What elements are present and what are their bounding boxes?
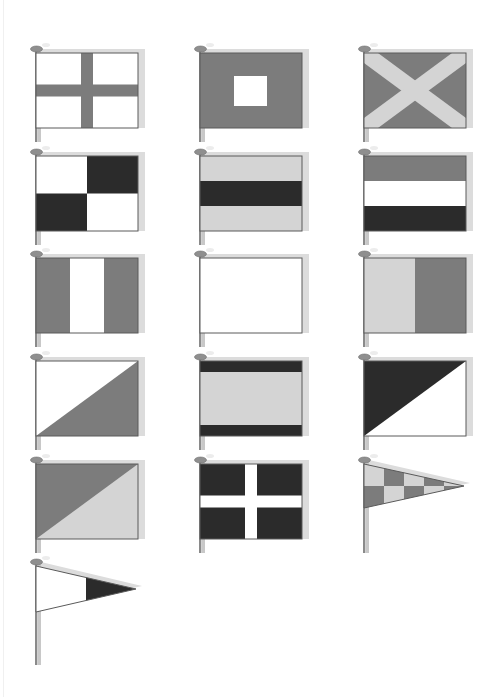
flag-cloth [36, 53, 138, 128]
flag-cloth [200, 156, 302, 231]
flag-r1c1 [32, 45, 162, 150]
flag-r3c3 [360, 250, 490, 355]
flag-r4c1 [32, 353, 162, 458]
flag-r2c3 [360, 148, 490, 253]
flag-r2c1 [32, 148, 162, 253]
flag-r2c2 [196, 148, 326, 253]
flag-r4c2 [196, 353, 326, 458]
flag-cloth [364, 258, 466, 333]
flag-cloth [200, 53, 302, 128]
flag-cloth [36, 361, 138, 436]
flag-r6c1 [32, 558, 162, 663]
flag-r5c1 [32, 456, 162, 561]
page-edge [3, 0, 4, 697]
flag-r4c3 [360, 353, 490, 458]
flag-r5c3 [360, 456, 490, 561]
flag-cloth [364, 53, 466, 128]
flag-cloth [36, 156, 138, 231]
flag-cloth [364, 156, 466, 231]
flag-cloth [364, 361, 466, 436]
flag-cloth [36, 258, 138, 333]
flag-cloth [36, 464, 138, 539]
flag-r5c2 [196, 456, 326, 561]
flag-r3c1 [32, 250, 162, 355]
flag-r1c2 [196, 45, 326, 150]
flag-r3c2 [196, 250, 326, 355]
flag-cloth [200, 361, 302, 436]
flag-cloth [200, 464, 302, 539]
flag-r1c3 [360, 45, 490, 150]
flag-cloth [200, 258, 302, 333]
